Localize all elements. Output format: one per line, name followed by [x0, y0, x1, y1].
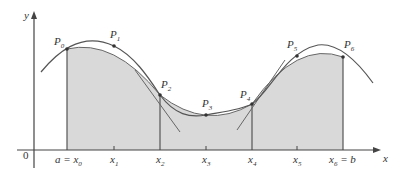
- tick-label-x6: x6 = b: [328, 153, 356, 168]
- tick-label-x5: x5: [292, 153, 302, 168]
- y-axis-label: y: [23, 9, 29, 21]
- x-axis-arrow-icon: [373, 147, 381, 153]
- x-tick-labels: a = x0 x1 x2 x3 x4 x5 x6 = b: [55, 153, 356, 168]
- label-p1: P1: [109, 28, 120, 43]
- tick-label-x1: x1: [109, 153, 118, 168]
- tick-label-x0: a = x0: [55, 153, 82, 168]
- tick-label-x3: x3: [201, 153, 211, 168]
- label-p3: P3: [201, 97, 213, 112]
- label-p5: P5: [286, 38, 298, 53]
- tick-label-x4: x4: [247, 153, 257, 168]
- origin-label: 0: [23, 149, 29, 161]
- tick-label-x2: x2: [155, 153, 165, 168]
- label-p2: P2: [160, 78, 172, 93]
- label-p4: P4: [239, 88, 251, 103]
- x-axis-label: x: [382, 152, 388, 164]
- y-axis-arrow-icon: [31, 11, 37, 19]
- simpsons-rule-diagram: y x 0 P0 P1 P2 P3 P4 P5 P6 a = x0 x1 x2 …: [0, 0, 402, 178]
- label-p6: P6: [343, 38, 355, 53]
- label-p0: P0: [53, 35, 65, 50]
